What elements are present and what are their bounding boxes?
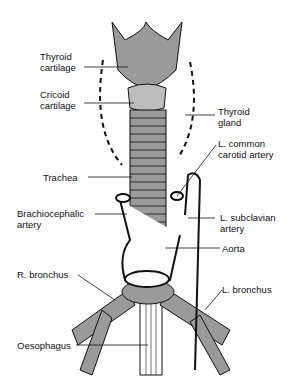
thyroid-cartilage-shape (112, 22, 182, 88)
label-thyroid-gland: Thyroid gland (218, 106, 250, 128)
label-line: carotid artery (218, 149, 273, 160)
label-line: artery (17, 219, 84, 230)
label-r-bronchus: R. bronchus (17, 269, 68, 280)
label-oesophagus: Oesophagus (17, 340, 71, 351)
label-l-common-carotid: L. common carotid artery (218, 138, 273, 160)
label-line: cartilage (40, 100, 76, 111)
label-line: Thyroid (40, 51, 76, 62)
cricoid-cartilage-shape (128, 84, 166, 111)
label-thyroid-cartilage: Thyroid cartilage (40, 51, 76, 73)
label-brachiocephalic: Brachiocephalic artery (17, 208, 84, 230)
label-line: Brachiocephalic (17, 208, 84, 219)
label-line: artery (220, 223, 275, 234)
label-l-subclavian: L. subclavian artery (220, 212, 275, 234)
label-line: Thyroid (218, 106, 250, 117)
label-cricoid-cartilage: Cricoid cartilage (40, 89, 76, 111)
label-line: L. common (218, 138, 273, 149)
label-line: Cricoid (40, 89, 76, 100)
label-trachea: Trachea (43, 172, 78, 183)
label-l-bronchus: L. bronchus (222, 284, 272, 295)
label-line: cartilage (40, 62, 76, 73)
label-line: gland (218, 117, 250, 128)
label-aorta: Aorta (222, 243, 245, 254)
label-line: L. subclavian (220, 212, 275, 223)
